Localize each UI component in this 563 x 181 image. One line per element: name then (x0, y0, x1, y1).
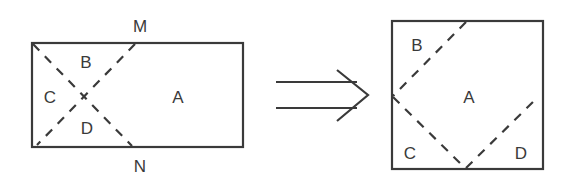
original-rectangle (32, 43, 243, 147)
arrow-head-icon (337, 70, 368, 121)
fold-line-b (393, 22, 466, 96)
folding-diagram: M N B C D A B A C D (0, 0, 563, 181)
right-region-b-label: B (411, 37, 422, 54)
diagram-canvas (0, 0, 563, 181)
right-region-a-label: A (463, 89, 474, 106)
right-region-c-label: C (404, 145, 416, 162)
left-region-b-label: B (80, 54, 91, 71)
point-m-label: M (133, 18, 147, 35)
point-n-label: N (134, 158, 146, 175)
left-region-d-label: D (81, 120, 93, 137)
fold-line-d (466, 97, 538, 168)
right-region-d-label: D (515, 145, 527, 162)
left-region-a-label: A (172, 89, 183, 106)
left-region-c-label: C (44, 89, 56, 106)
